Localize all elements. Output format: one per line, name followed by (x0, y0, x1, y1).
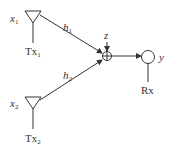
tx1-antenna-icon (25, 11, 41, 43)
rx-name-label: Rx (141, 84, 154, 96)
noise-label: z (103, 29, 109, 41)
tx2-signal-label: x2 (9, 97, 19, 111)
channel-h1-label: h1 (63, 21, 73, 35)
tx2-antenna-icon (25, 97, 41, 129)
channel-h2-label: h2 (63, 69, 73, 83)
output-y-label: y (158, 51, 164, 63)
rx-receiver-icon (142, 51, 155, 83)
summer-plus-circle-icon (103, 52, 112, 61)
diagram-canvas: x1 Tx1 x2 Tx2 h1 h2 z y Rx (0, 0, 176, 154)
tx2-name-label: Tx2 (25, 132, 41, 146)
tx1-signal-label: x1 (9, 12, 19, 26)
tx1-name-label: Tx1 (25, 45, 41, 59)
